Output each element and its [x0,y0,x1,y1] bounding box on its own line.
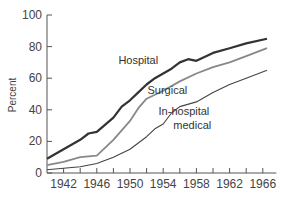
x-tick-label: 1962 [216,177,243,191]
x-tick-label: 1954 [150,177,177,191]
x-tick-label: 1946 [83,177,110,191]
y-tick-label: 60 [29,71,43,85]
y-tick-label: 0 [35,166,42,180]
series-label: medical [173,119,211,131]
series-label: In-hospital [159,105,210,117]
y-axis-title: Percent [7,78,18,113]
x-tick-label: 1966 [249,177,276,191]
y-tick-label: 100 [22,8,42,22]
chart-axes: 020406080100Percent194219461950195419581… [7,8,276,191]
x-tick-label: 1942 [50,177,77,191]
series-label: Surgical [147,84,187,96]
series-label: Hospital [118,54,158,66]
y-tick-label: 40 [29,103,43,117]
y-tick-label: 80 [29,40,43,54]
y-tick-label: 20 [29,134,43,148]
chart-annotations: HospitalSurgicalIn-hospitalmedical [118,54,211,131]
line-chart: 020406080100Percent194219461950195419581… [0,0,288,197]
x-tick-label: 1950 [117,177,144,191]
x-tick-label: 1958 [183,177,210,191]
